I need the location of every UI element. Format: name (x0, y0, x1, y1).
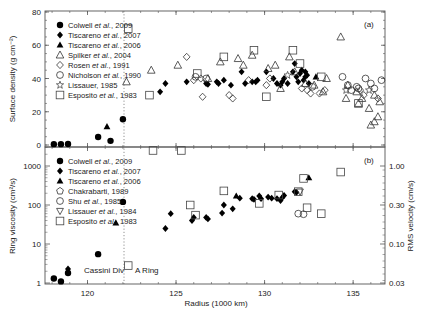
data-point (51, 141, 57, 147)
data-point (307, 90, 314, 97)
data-point (317, 210, 325, 218)
legend-marker-icon (57, 158, 63, 164)
data-point (221, 77, 227, 84)
legend-marker-icon (56, 91, 64, 99)
y-tick-label-a: 40 (32, 75, 41, 84)
data-point (178, 147, 186, 155)
legend-marker-icon (56, 51, 64, 58)
legend-label: Esposito et al., 1983 (68, 217, 137, 226)
legend-label: Tiscareno et al., 2007 (68, 31, 141, 40)
y-tick-label-b: 1000 (23, 162, 41, 171)
x-tick-label: 130 (258, 289, 272, 298)
x-tick-label: 125 (169, 289, 183, 298)
legend-label: Tiscareno et al., 2006 (68, 41, 141, 50)
y-tick-label-right: 0.03 (389, 279, 405, 288)
data-point (229, 95, 236, 102)
data-point (233, 192, 240, 198)
y-tick-label-a: 80 (32, 8, 41, 17)
data-point (263, 82, 270, 89)
data-point (337, 33, 345, 40)
x-tick-label: 120 (81, 289, 95, 298)
legend-marker-icon (57, 22, 63, 28)
y-tick-label-a: 60 (32, 41, 41, 50)
legend-marker-icon (57, 72, 64, 79)
data-point (51, 275, 57, 281)
data-point (289, 46, 297, 54)
data-point (219, 210, 225, 217)
data-point (263, 93, 271, 101)
y-axis-label-a: Surface density (g cm⁻²) (8, 35, 17, 122)
legend-marker-icon (57, 41, 64, 47)
legend-marker-icon (57, 187, 64, 194)
data-point (199, 93, 206, 100)
y-tick-label-right: 0.30 (389, 201, 405, 210)
data-point (337, 168, 345, 176)
data-point (353, 83, 360, 90)
legend-label: Chakrabarti, 1989 (68, 187, 128, 196)
data-point (310, 81, 318, 88)
data-point (234, 55, 242, 62)
data-point (157, 88, 163, 95)
legend-marker-icon (57, 32, 63, 39)
data-point (146, 91, 154, 99)
legend-label: Spilker et al., 2004 (68, 51, 131, 60)
data-point (367, 80, 374, 87)
legend-label: Shu et al., 1985 (68, 197, 121, 206)
data-point (95, 251, 101, 257)
data-point (65, 141, 71, 147)
legend-label: Nicholson et al., 1990 (68, 71, 141, 80)
data-point (147, 66, 155, 73)
y-tick-label-b: 100 (28, 201, 42, 210)
data-point (303, 204, 311, 212)
data-point (184, 78, 190, 85)
data-point (248, 51, 256, 58)
data-point (149, 147, 157, 155)
data-point (271, 61, 279, 68)
y-tick-label-a: 0 (37, 141, 42, 150)
legend-label: Rosen et al., 1991 (68, 61, 130, 70)
panel-a-legend: Colwell et al., 2009Tiscareno et al., 20… (56, 21, 141, 100)
cassini-div-annotation: Cassini Div (84, 266, 124, 275)
legend-marker-icon (57, 208, 64, 214)
data-point (300, 175, 308, 183)
data-point (313, 73, 320, 79)
legend-label: Colwell et al., 2009 (68, 157, 132, 166)
data-point (168, 210, 174, 217)
y-axis-label-b: Ring viscosity (cm²/s) (8, 178, 17, 254)
x-axis-label: Radius (1000 km) (184, 299, 247, 308)
y-tick-label-b: 10 (32, 240, 41, 249)
data-point (305, 174, 312, 180)
a-ring-annotation: A Ring (135, 266, 159, 275)
data-point (174, 61, 182, 68)
data-point (104, 123, 111, 129)
data-point (162, 225, 168, 232)
legend-marker-icon (57, 177, 64, 183)
legend-marker-icon (57, 198, 64, 205)
data-point (292, 60, 298, 67)
y-tick-label-b: 1 (37, 279, 42, 288)
x-tick-label: 135 (346, 289, 360, 298)
data-point (186, 201, 194, 209)
legend-label: Tiscareno et al., 2006 (68, 177, 141, 186)
y-tick-label-right: 1.00 (389, 162, 405, 171)
data-point (285, 80, 291, 87)
panel-b-legend: Colwell et al., 2009Tiscareno et al., 20… (56, 157, 141, 226)
data-point (230, 205, 236, 212)
panel-a-label: (a) (364, 20, 374, 29)
data-point (362, 75, 369, 82)
data-point (162, 80, 168, 87)
data-point (342, 94, 350, 101)
data-point (95, 134, 101, 140)
data-point (378, 77, 385, 84)
data-point (58, 278, 64, 284)
data-point (365, 86, 372, 93)
data-point (183, 53, 190, 60)
data-point (58, 141, 64, 147)
legend-label: Tiscareno et al., 2007 (68, 167, 141, 176)
data-point (242, 80, 248, 87)
panel-b-label: (b) (364, 156, 374, 165)
data-point (220, 187, 228, 195)
data-point (221, 202, 227, 209)
data-point (226, 92, 233, 99)
legend-label: Esposito et al., 1983 (68, 91, 137, 100)
